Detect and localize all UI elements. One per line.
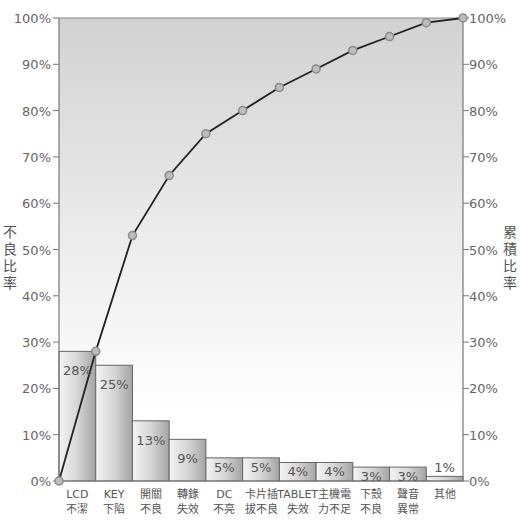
y-axis-title-right: 累積比率	[503, 224, 517, 291]
y-tick-right: 30%	[469, 335, 498, 350]
y-tick-left: 0%	[30, 474, 51, 489]
cumulative-marker	[128, 232, 136, 240]
cumulative-marker	[202, 130, 210, 138]
y-tick-right: 90%	[469, 57, 498, 72]
bar-value-label: 28%	[63, 363, 92, 378]
cumulative-marker	[92, 347, 100, 355]
category-label: 主機電	[318, 487, 351, 501]
bar-value-label: 13%	[136, 433, 165, 448]
bar-value-label: 5%	[251, 460, 272, 475]
category-label: 卡片插	[245, 487, 278, 501]
y-tick-left: 20%	[22, 381, 51, 396]
bar-value-label: 3%	[361, 469, 382, 484]
category-label: 不良	[360, 502, 382, 516]
cumulative-marker	[422, 19, 430, 27]
category-label: 拔不良	[245, 502, 278, 516]
cumulative-marker	[312, 65, 320, 73]
cumulative-marker	[459, 14, 467, 22]
category-label: 不潔	[66, 502, 88, 516]
y-tick-left: 80%	[22, 104, 51, 119]
y-tick-left: 70%	[22, 150, 51, 165]
y-tick-left: 30%	[22, 335, 51, 350]
bar-value-label: 5%	[214, 460, 235, 475]
y-tick-right: 40%	[469, 289, 498, 304]
bar-value-label: 3%	[398, 469, 419, 484]
category-label: 下陷	[103, 502, 125, 516]
y-tick-right: 0%	[469, 474, 490, 489]
cumulative-marker	[239, 107, 247, 115]
category-label: 力不足	[318, 503, 351, 516]
y-tick-left: 100%	[14, 11, 51, 26]
y-tick-left: 40%	[22, 289, 51, 304]
category-label: 不良	[140, 502, 162, 516]
category-label: 失效	[287, 502, 309, 516]
category-label: LCD	[66, 488, 88, 501]
y-tick-left: 60%	[22, 196, 51, 211]
y-tick-right: 10%	[469, 428, 498, 443]
y-tick-left: 50%	[22, 243, 51, 258]
bar	[426, 476, 463, 481]
bar-value-label: 4%	[324, 464, 345, 479]
bar	[132, 421, 169, 481]
category-label: 異常	[397, 503, 419, 516]
category-label: KEY	[104, 488, 125, 501]
bar-value-label: 9%	[177, 451, 198, 466]
y-tick-right: 60%	[469, 196, 498, 211]
category-label: 開關	[140, 488, 162, 501]
bar-value-label: 1%	[434, 460, 455, 475]
category-label: 不亮	[213, 502, 235, 516]
pareto-chart: 0%10%20%30%40%50%60%70%80%90%100%0%10%20…	[0, 0, 521, 523]
category-label: 失效	[177, 502, 199, 516]
y-tick-right: 20%	[469, 381, 498, 396]
category-label: TABLET	[276, 488, 318, 501]
y-tick-right: 50%	[469, 243, 498, 258]
category-label: 其他	[434, 488, 456, 501]
cumulative-marker	[275, 83, 283, 91]
y-tick-left: 10%	[22, 428, 51, 443]
category-label: DC	[216, 488, 232, 501]
y-tick-right: 100%	[469, 11, 506, 26]
cumulative-marker	[349, 46, 357, 54]
cumulative-marker	[386, 33, 394, 41]
cumulative-marker	[165, 171, 173, 179]
bar-value-label: 25%	[100, 377, 129, 392]
y-tick-right: 70%	[469, 150, 498, 165]
cumulative-marker	[55, 477, 63, 485]
bar-value-label: 4%	[287, 464, 308, 479]
category-label: 轉錄	[177, 487, 199, 501]
category-label: 下殼	[360, 488, 382, 501]
y-tick-right: 80%	[469, 104, 498, 119]
y-tick-left: 90%	[22, 57, 51, 72]
category-label: 聲音	[397, 487, 419, 501]
y-axis-title-left: 不良比率	[3, 224, 17, 291]
